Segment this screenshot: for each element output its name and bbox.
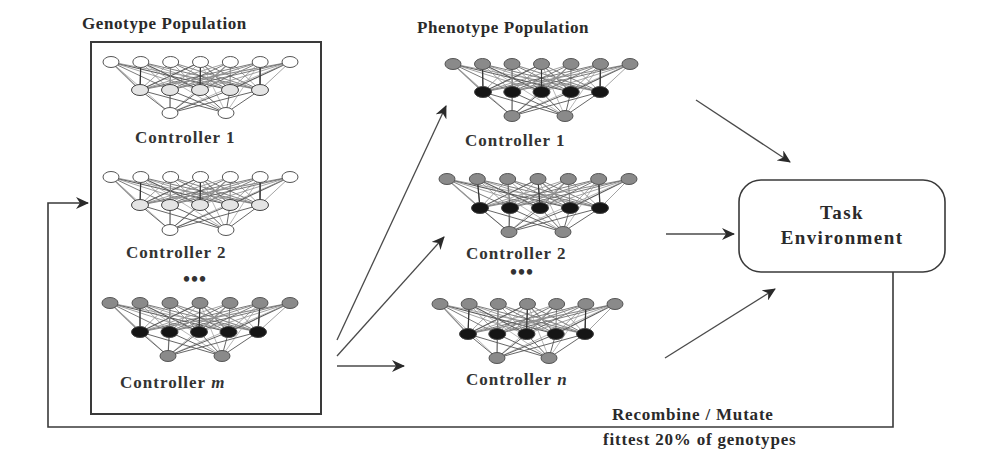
hidden-node [250,327,267,338]
input-node [103,172,119,183]
feedback-caption-line2: fittest 20% of genotypes [603,430,796,449]
hidden-node [252,85,269,96]
hidden-node [191,327,208,338]
hidden-node [460,329,477,340]
input-node [500,174,516,185]
phenotype-controller-2: Controller 2 [439,174,637,264]
genotype-population-panel: Genotype Population Controller 1Controll… [82,14,321,414]
phenotype-networks: Controller 1Controller 2Controller n [432,59,638,390]
hidden-node [220,327,237,338]
genotype-networks: Controller 1Controller 2Controller m [102,57,298,393]
input-node [475,59,491,70]
hidden-node [533,87,550,98]
input-node [490,299,506,310]
task-environment-label-line2: Environment [781,227,904,248]
genotype-to-phenotype-1-arrow [337,106,446,340]
hidden-node [132,327,149,338]
phenotype-controller-3: Controller n [432,299,623,390]
input-node [282,298,298,309]
controller-label: Controller 2 [126,243,227,262]
controller-label: Controller n [466,370,568,389]
hidden-node [222,200,239,211]
hidden-node [472,203,489,214]
output-node [162,108,178,119]
hidden-node [562,203,579,214]
input-node [560,174,576,185]
input-node [102,298,118,309]
output-node [162,225,178,236]
output-node [504,111,520,122]
hidden-node [162,85,179,96]
input-node [133,172,149,183]
hidden-node [577,329,594,340]
input-node [469,174,485,185]
hidden-node [592,87,609,98]
genotype-ellipsis: ••• [183,268,207,290]
input-node [192,298,208,309]
input-node [534,59,550,70]
hidden-node [518,329,535,340]
input-node [530,174,546,185]
output-node [218,225,234,236]
input-node [163,57,179,68]
output-node [555,227,571,238]
genotype-controller-3: Controller m [102,298,298,393]
genotype-to-phenotype-2-arrow [337,237,444,356]
input-node [193,172,209,183]
hidden-node [252,200,269,211]
phenotype-ellipsis: ••• [510,261,534,283]
task-environment: Task Environment [739,180,945,272]
output-node [501,227,517,238]
feedback-caption-line1: Recombine / Mutate [612,405,774,424]
hidden-node [192,85,209,96]
output-node [541,353,557,364]
phenotype-1-to-task-arrow [696,100,790,162]
hidden-node [502,203,519,214]
task-environment-box [739,180,945,272]
phenotype-controller-1: Controller 1 [445,59,638,151]
input-node [622,59,638,70]
input-node [549,299,565,310]
input-node [593,59,609,70]
hidden-node [489,329,506,340]
input-node [591,174,607,185]
input-node [222,57,238,68]
controller-label: Controller m [120,373,225,392]
input-node [252,298,268,309]
input-node [432,299,448,310]
input-node [132,298,148,309]
hidden-node [504,87,521,98]
input-node [504,59,520,70]
phenotype-population-title: Phenotype Population [417,18,589,37]
controller-label: Controller 1 [135,128,236,147]
hidden-node [532,203,549,214]
input-node [252,172,268,183]
task-environment-label-line1: Task [820,202,864,223]
input-node [103,57,119,68]
input-node [607,299,623,310]
phenotype-population-panel: Phenotype Population Controller 1Control… [417,18,638,389]
hidden-node [132,200,149,211]
input-node [163,172,179,183]
controller-label: Controller 1 [465,131,566,150]
phenotype-n-to-task-arrow [665,289,775,358]
hidden-node [161,327,178,338]
output-node [218,108,234,119]
input-node [282,57,298,68]
hidden-node [192,200,209,211]
input-node [520,299,536,310]
input-node [563,59,579,70]
output-node [160,351,176,362]
evolution-diagram: Genotype Population Controller 1Controll… [0,0,990,470]
hidden-node [592,203,609,214]
genotype-controller-2: Controller 2 [103,172,298,263]
input-node [282,172,298,183]
output-node [214,351,230,362]
input-node [222,298,238,309]
hidden-node [547,329,564,340]
input-node [133,57,149,68]
hidden-node [132,85,149,96]
hidden-node [562,87,579,98]
input-node [162,298,178,309]
hidden-node [222,85,239,96]
